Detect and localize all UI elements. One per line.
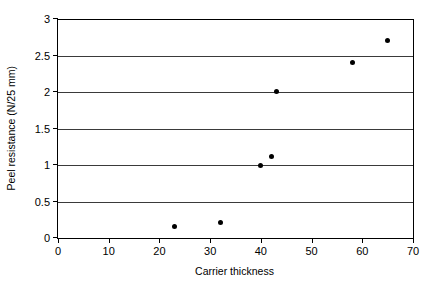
y-axis-tick-label: 1.5 bbox=[35, 123, 50, 134]
x-axis-tick bbox=[159, 238, 160, 243]
gridline-y-1 bbox=[58, 165, 413, 166]
data-point bbox=[258, 163, 263, 168]
y-axis-tick bbox=[53, 55, 58, 56]
x-axis-tick bbox=[261, 238, 262, 243]
y-axis-tick-label: 2 bbox=[44, 87, 50, 98]
y-axis-tick-label: 0.5 bbox=[35, 196, 50, 207]
scatter-chart: 00.511.522.53 010203040506070 Peel resis… bbox=[0, 0, 434, 289]
x-axis-title: Carrier thickness bbox=[57, 266, 412, 277]
data-point bbox=[350, 60, 355, 65]
plot-area: 00.511.522.53 010203040506070 bbox=[57, 19, 414, 239]
data-point bbox=[172, 224, 177, 229]
x-axis-tick bbox=[210, 238, 211, 243]
y-axis-title: Peel resistance (N/25 mm) bbox=[4, 19, 18, 238]
x-axis-tick-label: 40 bbox=[255, 246, 267, 257]
data-point bbox=[269, 154, 274, 159]
x-axis-tick bbox=[109, 238, 110, 243]
x-axis-tick bbox=[312, 238, 313, 243]
y-axis-title-label: Peel resistance (N/25 mm) bbox=[6, 66, 17, 190]
y-axis-tick bbox=[53, 201, 58, 202]
y-axis-tick-label: 1 bbox=[44, 160, 50, 171]
y-axis-tick-label: 0 bbox=[44, 233, 50, 244]
y-axis-tick-label: 3 bbox=[44, 14, 50, 25]
y-axis-tick bbox=[53, 91, 58, 92]
y-axis-tick bbox=[53, 164, 58, 165]
x-axis-tick-label: 70 bbox=[407, 246, 419, 257]
y-axis-tick bbox=[53, 18, 58, 19]
x-axis-tick-label: 20 bbox=[153, 246, 165, 257]
y-axis-tick-label: 2.5 bbox=[35, 50, 50, 61]
x-axis-tick-label: 10 bbox=[103, 246, 115, 257]
x-axis-tick-label: 60 bbox=[356, 246, 368, 257]
y-axis-tick bbox=[53, 128, 58, 129]
x-axis-tick bbox=[362, 238, 363, 243]
gridline-y-1_5 bbox=[58, 129, 413, 130]
data-point bbox=[274, 89, 279, 94]
gridline-y-2 bbox=[58, 92, 413, 93]
data-point bbox=[385, 38, 390, 43]
gridline-y-0_5 bbox=[58, 202, 413, 203]
x-axis-title-label: Carrier thickness bbox=[195, 265, 274, 277]
x-axis-tick-label: 0 bbox=[55, 246, 61, 257]
x-axis-tick-label: 30 bbox=[204, 246, 216, 257]
x-axis-tick bbox=[413, 238, 414, 243]
gridline-y-3 bbox=[58, 19, 413, 20]
x-axis-tick-label: 50 bbox=[305, 246, 317, 257]
gridline-y-2_5 bbox=[58, 56, 413, 57]
data-point bbox=[218, 220, 223, 225]
x-axis-tick bbox=[58, 238, 59, 243]
